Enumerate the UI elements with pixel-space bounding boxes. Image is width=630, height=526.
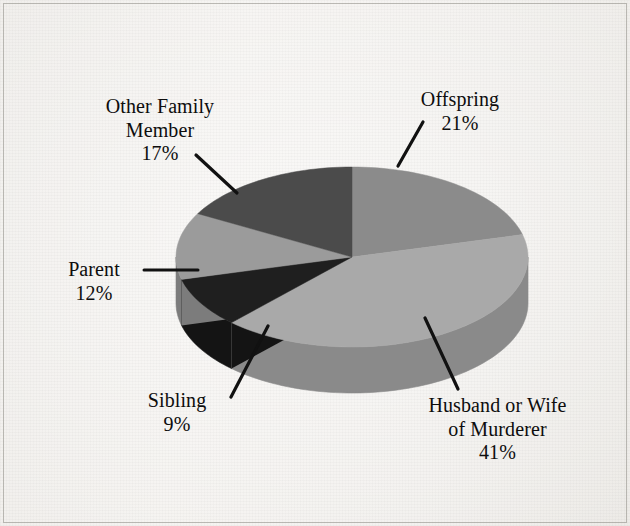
- slice-label-sibling: Sibling 9%: [122, 389, 232, 436]
- slice-label-sibling-percent: 9%: [122, 413, 232, 437]
- slice-label-parent-name: Parent: [48, 258, 140, 282]
- slice-label-husband-or-wife: Husband or Wife of Murderer 41%: [395, 394, 600, 465]
- slice-label-sibling-name: Sibling: [122, 389, 232, 413]
- slice-label-husband-or-wife-line1: Husband or Wife: [395, 394, 600, 418]
- slice-label-other-family-member-line1: Other Family: [70, 95, 250, 119]
- slice-label-offspring: Offspring 21%: [395, 88, 525, 135]
- pie-top-faces: [176, 167, 528, 347]
- slice-label-parent: Parent 12%: [48, 258, 140, 305]
- slice-label-husband-or-wife-line2: of Murderer: [395, 418, 600, 442]
- slice-label-offspring-name: Offspring: [395, 88, 525, 112]
- slice-label-other-family-member-percent: 17%: [70, 142, 250, 166]
- slice-label-husband-or-wife-percent: 41%: [395, 441, 600, 465]
- slice-label-offspring-percent: 21%: [395, 112, 525, 136]
- slice-label-other-family-member: Other Family Member 17%: [70, 95, 250, 166]
- pie-chart-figure: Offspring 21% Other Family Member 17% Pa…: [0, 0, 630, 526]
- slice-label-parent-percent: 12%: [48, 282, 140, 306]
- slice-label-other-family-member-line2: Member: [70, 119, 250, 143]
